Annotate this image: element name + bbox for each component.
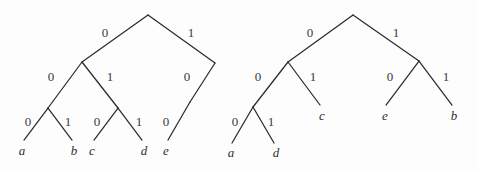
huffman-code-tree-figure: 0101001010abcde01010101adceb <box>0 0 477 171</box>
edge-bit-label: 1 <box>136 114 143 129</box>
leaf-symbol-label: c <box>89 143 95 158</box>
leaf-symbol-label: b <box>451 108 458 123</box>
leaf-symbol-label: d <box>141 143 148 158</box>
edge-bit-label: 0 <box>255 69 262 84</box>
edge-bit-label: 0 <box>163 114 170 129</box>
leaf-symbol-label: a <box>19 143 26 158</box>
edge-bit-label: 1 <box>188 25 195 40</box>
leaf-symbol-label: a <box>228 145 235 160</box>
edge-bit-label: 1 <box>443 69 450 84</box>
edge-bit-label: 1 <box>268 114 275 129</box>
leaf-symbol-label: e <box>382 108 388 123</box>
leaf-symbol-label: b <box>71 143 78 158</box>
binary-code-tree-left: 0101001010abcde <box>19 15 215 158</box>
leaf-symbol-label: e <box>163 143 169 158</box>
tree-edge <box>168 102 190 140</box>
edge-bit-label: 0 <box>184 69 191 84</box>
edge-bit-label: 1 <box>393 25 400 40</box>
leaf-symbol-label: c <box>319 108 325 123</box>
edge-bit-label: 0 <box>94 114 101 129</box>
edge-bit-label: 1 <box>107 69 114 84</box>
edge-bit-label: 0 <box>232 114 239 129</box>
tree-edge <box>82 15 148 62</box>
edge-bit-label: 0 <box>48 69 55 84</box>
edge-bit-label: 1 <box>310 69 317 84</box>
tree-diagram-canvas: 0101001010abcde01010101adceb <box>0 0 477 171</box>
leaf-symbol-label: d <box>273 145 280 160</box>
tree-edge <box>190 63 215 102</box>
tree-edge <box>148 15 215 63</box>
tree-edge <box>353 15 419 61</box>
tree-edge <box>288 15 353 62</box>
edge-bit-label: 0 <box>307 25 314 40</box>
edge-bit-label: 0 <box>387 69 394 84</box>
binary-code-tree-right: 01010101adceb <box>228 15 458 160</box>
edge-bit-label: 0 <box>25 114 32 129</box>
edge-bit-label: 1 <box>65 114 72 129</box>
edge-bit-label: 0 <box>102 25 109 40</box>
